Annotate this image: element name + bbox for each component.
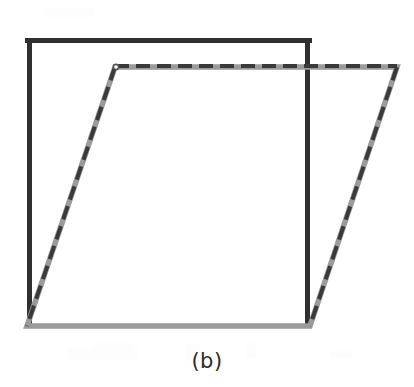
figure-canvas — [0, 0, 414, 387]
parallelogram-vertex-marker — [113, 64, 118, 69]
figure-panel: (b) — [0, 0, 414, 387]
